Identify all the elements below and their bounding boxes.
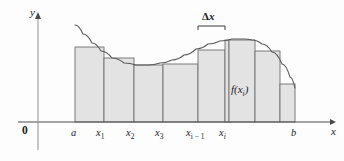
f-of-xi-label: f(xi) — [231, 84, 248, 95]
f-xi-close-paren: ) — [245, 83, 249, 95]
origin-label: 0 — [22, 125, 28, 137]
riemann-rectangle — [198, 50, 225, 122]
riemann-rectangle — [280, 84, 295, 122]
x-tick-subscript: 1 — [101, 132, 105, 141]
riemann-rectangle — [163, 64, 198, 122]
x-tick-subscript: i — [224, 132, 226, 141]
delta-x-bracket — [198, 26, 225, 30]
riemann-rectangles — [75, 40, 295, 122]
riemann-rectangle — [75, 47, 104, 122]
x-tick-label-x1: x1 — [96, 128, 104, 139]
riemann-sum-figure: y x 0 ax1x2x3xi − 1xib Δx f(xi) — [0, 0, 344, 161]
riemann-rectangle — [225, 40, 229, 122]
x-tick-label-a: a — [71, 128, 76, 139]
riemann-rectangle — [104, 58, 134, 122]
delta-x-variable: x — [209, 10, 215, 22]
f-xi-subscript: i — [243, 89, 245, 98]
x-tick-label-b: b — [291, 128, 296, 139]
y-axis-label: y — [30, 7, 35, 18]
x-tick-label-x2: x2 — [126, 128, 134, 139]
x-tick-subscript: 2 — [131, 132, 135, 141]
riemann-rectangle — [255, 51, 280, 122]
x-tick-label-xi: xi — [219, 128, 226, 139]
riemann-rectangle — [134, 65, 163, 122]
x-tick-subscript: 3 — [160, 132, 164, 141]
x-tick-label-xi-1: xi − 1 — [186, 128, 205, 139]
delta-x-label: Δx — [202, 11, 214, 22]
x-axis-label: x — [331, 126, 336, 137]
x-tick-subscript: i − 1 — [191, 132, 205, 141]
y-axis-arrow-icon — [35, 12, 41, 19]
x-tick-label-x3: x3 — [155, 128, 163, 139]
riemann-rectangle — [229, 40, 255, 122]
